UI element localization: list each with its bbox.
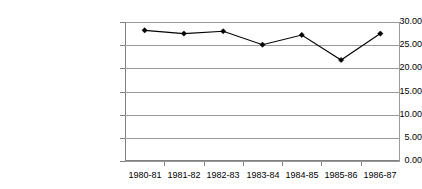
x-tick-mark [164,162,165,166]
x-tick-mark [243,162,244,166]
x-tick-label: 1985-86 [324,170,357,180]
x-tick-mark [282,162,283,166]
x-tick-label: 1981-82 [167,170,200,180]
data-point-marker [299,32,304,37]
y-tick-mark [120,161,125,162]
x-tick-label: 1986-87 [363,170,396,180]
data-point-marker [142,28,147,33]
x-tick-label: 1982-83 [206,170,239,180]
x-tick-label: 1983-84 [246,170,279,180]
data-series [125,22,400,161]
data-point-marker [221,29,226,34]
x-tick-mark [204,162,205,166]
data-point-marker [260,42,265,47]
line-chart: 0.005.0010.0015.0020.0025.0030.00 1980-8… [0,0,422,189]
x-tick-mark [361,162,362,166]
x-tick-label: 1984-85 [285,170,318,180]
x-tick-mark [321,162,322,166]
data-point-marker [181,31,186,36]
x-tick-label: 1980-81 [128,170,161,180]
